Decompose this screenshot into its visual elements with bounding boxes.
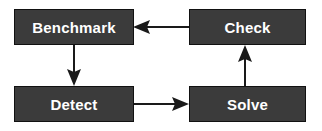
node-benchmark-label: Benchmark <box>32 20 116 35</box>
node-benchmark[interactable]: Benchmark <box>14 9 134 45</box>
node-detect-label: Detect <box>50 97 97 112</box>
node-detect[interactable]: Detect <box>14 86 134 122</box>
node-check[interactable]: Check <box>189 9 306 45</box>
edge-benchmark-to-detect <box>67 45 81 86</box>
node-check-label: Check <box>224 20 270 35</box>
diagram-canvas: Benchmark Check Detect Solve <box>0 0 322 131</box>
edge-solve-to-check <box>238 45 252 86</box>
edge-detect-to-solve <box>134 97 189 111</box>
edge-check-to-benchmark <box>133 20 189 34</box>
node-solve[interactable]: Solve <box>189 86 306 122</box>
node-solve-label: Solve <box>227 97 268 112</box>
